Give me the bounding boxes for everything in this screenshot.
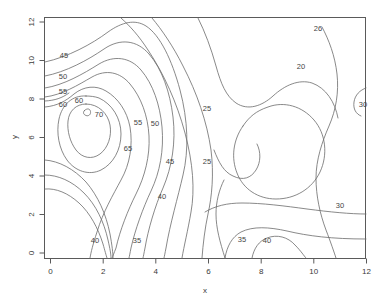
x-tick-label-8: 8: [259, 267, 264, 276]
contour-label: 45: [166, 157, 174, 166]
x-tick-label-10: 10: [309, 267, 318, 276]
y-tick-label-12: 12: [27, 17, 36, 26]
x-tick-label-6: 6: [206, 267, 211, 276]
contour-label: 26: [314, 24, 322, 33]
contour-line-20: [234, 105, 325, 199]
contour-line-65: [58, 96, 121, 173]
x-tick-label-2: 2: [101, 267, 106, 276]
plot-frame: [45, 18, 366, 259]
contour-plot-canvas: 0 2 4 6 8 10 12 x 0 2 4 6 8 10 12 y: [0, 0, 392, 301]
contour-label: 25: [203, 157, 211, 166]
contour-label: 30: [359, 100, 367, 109]
y-tick-label-2: 2: [27, 212, 36, 217]
contour-line-30: [152, 18, 212, 258]
contour-label: 35: [133, 236, 141, 245]
contour-line-75: [83, 109, 90, 116]
contour-label: 60: [75, 96, 83, 105]
contour-line-25: [198, 18, 338, 118]
x-tick-label-4: 4: [154, 267, 159, 276]
y-tick-label-0: 0: [27, 250, 36, 255]
contour-label: 30: [336, 201, 344, 210]
y-axis: 0 2 4 6 8 10 12 y: [10, 17, 45, 255]
contour-label: 20: [297, 62, 305, 71]
contour-line-25-mid: [216, 180, 225, 258]
y-axis-title: y: [10, 135, 19, 139]
contour-label: 50: [151, 119, 159, 128]
contour-label: 50: [59, 72, 67, 81]
contour-line-35: [121, 18, 193, 258]
y-tick-label-8: 8: [27, 96, 36, 101]
contour-label: 55: [134, 118, 142, 127]
contour-label: 35: [238, 235, 246, 244]
x-tick-label-0: 0: [48, 267, 53, 276]
x-tick-label-12: 12: [362, 267, 371, 276]
contour-label: 40: [263, 236, 271, 245]
y-tick-label-4: 4: [27, 173, 36, 178]
contour-label: 60: [59, 100, 67, 109]
y-tick-label-10: 10: [27, 56, 36, 65]
y-tick-label-6: 6: [27, 135, 36, 140]
contour-label: 25: [203, 104, 211, 113]
contour-line-45-left: [45, 175, 111, 258]
contour-label: 65: [124, 144, 132, 153]
contour-label: 40: [91, 236, 99, 245]
x-axis-title: x: [203, 286, 207, 295]
contour-label: 70: [95, 110, 103, 119]
contour-line-40-lower: [252, 236, 306, 258]
contour-line-70: [68, 104, 111, 157]
contour-plot: 0 2 4 6 8 10 12 x 0 2 4 6 8 10 12 y: [0, 0, 392, 301]
contour-label: 40: [158, 192, 166, 201]
x-axis: 0 2 4 6 8 10 12 x: [48, 259, 371, 296]
contour-lines: [45, 18, 366, 258]
contour-line-26: [316, 27, 338, 258]
contour-label: 45: [60, 51, 68, 60]
contour-label: 55: [59, 87, 67, 96]
